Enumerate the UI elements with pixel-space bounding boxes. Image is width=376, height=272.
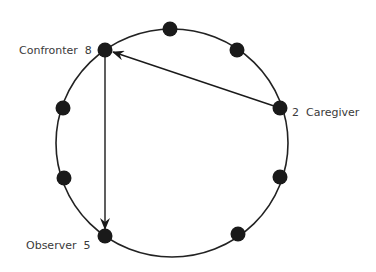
node-confronter (98, 43, 113, 58)
label-confronter: Confronter 8 (19, 44, 92, 57)
node-top-right (230, 43, 245, 58)
node-caregiver (273, 101, 288, 116)
role-circle-diagram: Confronter 8 2 Caregiver Observer 5 (0, 0, 376, 272)
role-circle (56, 29, 288, 257)
node-bottom-right (231, 227, 246, 242)
node-top (163, 22, 178, 37)
label-observer: Observer 5 (26, 239, 90, 252)
node-left-upper (56, 101, 71, 116)
label-caregiver: 2 Caregiver (292, 106, 360, 119)
node-observer (98, 229, 113, 244)
arrow-caregiver-to-confronter (113, 52, 280, 108)
node-left-lower (57, 171, 72, 186)
node-right-lower (273, 170, 288, 185)
